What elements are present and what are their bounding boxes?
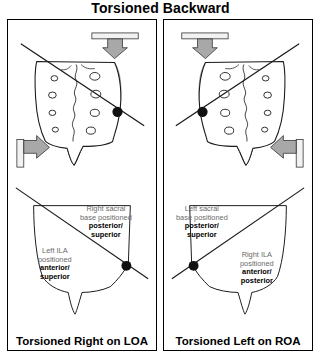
torsioned-backward-figure: Torsioned Backward: [0, 0, 321, 357]
annotation-sacral-base-right: Left sacral base positioned posterior/ s…: [176, 205, 228, 239]
pivot-dot-icon: [197, 107, 207, 117]
anno-line-emphasis: posterior: [241, 276, 273, 285]
panel-torsioned-left-on-roa: Left sacral base positioned posterior/ s…: [163, 19, 313, 351]
anno-line-emphasis: superior: [40, 272, 70, 281]
anno-line-emphasis: superior: [187, 230, 217, 239]
annotation-ila-right: Right ILA positioned anterior/ posterior: [240, 251, 274, 285]
sacrum-illustration-icon: [164, 20, 312, 183]
pivot-dot-icon: [189, 261, 199, 271]
panel-torsioned-right-on-loa: Right sacral base positioned posterior/ …: [7, 19, 157, 351]
sacrum-diagram-right: [164, 20, 312, 183]
sacrum-schematic-icon: [8, 183, 156, 322]
annotation-sacral-base-left: Right sacral base positioned posterior/ …: [80, 205, 132, 239]
sacrum-diagram-left: [8, 20, 156, 183]
panel-caption-right: Torsioned Left on ROA: [164, 335, 312, 347]
panel-container: Right sacral base positioned posterior/ …: [7, 19, 314, 351]
annotation-ila-left: Left ILA positioned anterior/ superior: [38, 247, 72, 281]
sacral-position-diagram-right: Left sacral base positioned posterior/ s…: [164, 183, 312, 322]
sacral-position-diagram-left: Right sacral base positioned posterior/ …: [8, 183, 156, 322]
downward-force-arrow-icon: [92, 33, 138, 59]
page-title: Torsioned Backward: [0, 0, 321, 18]
pivot-dot-icon: [112, 107, 122, 117]
anno-line-emphasis: superior: [91, 230, 121, 239]
sacrum-illustration-icon: [8, 20, 156, 183]
downward-force-arrow-icon: [182, 33, 228, 59]
panel-caption-left: Torsioned Right on LOA: [8, 335, 156, 347]
pivot-dot-icon: [121, 261, 131, 271]
